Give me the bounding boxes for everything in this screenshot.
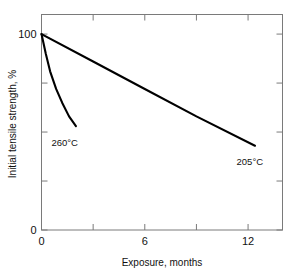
y-tick-label: 100 xyxy=(18,28,36,40)
x-axis-label: Exposure, months xyxy=(122,257,203,268)
x-tick-label: 6 xyxy=(142,235,148,247)
series-label-260-c: 260°C xyxy=(51,137,78,148)
chart-figure: 06120100 260°C205°C Exposure, months Ini… xyxy=(0,0,290,272)
x-tick-label: 0 xyxy=(38,235,44,247)
y-tick-label: 0 xyxy=(30,224,36,236)
chart-svg: 06120100 260°C205°C Exposure, months Ini… xyxy=(0,0,290,272)
x-tick-label: 12 xyxy=(242,235,254,247)
series-label-205-c: 205°C xyxy=(237,156,264,167)
y-axis-label: Initial tensile strength, % xyxy=(7,70,18,178)
